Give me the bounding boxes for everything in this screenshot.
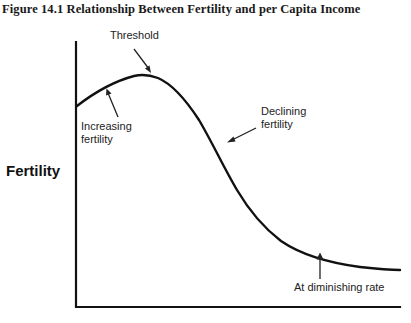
threshold-arrow xyxy=(134,49,151,73)
annotation-declining-fertility: Declining fertility xyxy=(261,105,306,131)
increasing-fertility-arrow xyxy=(106,89,118,118)
annotation-declining-fertility-line2: fertility xyxy=(261,118,306,131)
annotation-declining-fertility-line1: Declining xyxy=(261,105,306,118)
annotation-increasing-fertility-line2: fertility xyxy=(81,133,132,146)
annotation-increasing-fertility-line1: Increasing xyxy=(81,120,132,133)
y-axis-label: Fertility xyxy=(6,162,60,179)
figure-page: Figure 14.1 Relationship Between Fertili… xyxy=(0,0,411,323)
fertility-income-chart xyxy=(0,0,411,323)
chart-axes xyxy=(76,42,400,307)
fertility-curve xyxy=(77,75,400,270)
annotation-diminishing-rate: At diminishing rate xyxy=(294,281,385,294)
annotation-increasing-fertility: Increasing fertility xyxy=(81,120,132,146)
declining-fertility-arrow xyxy=(227,128,256,143)
diminishing-rate-arrow xyxy=(317,253,324,280)
annotation-threshold: Threshold xyxy=(110,29,159,42)
